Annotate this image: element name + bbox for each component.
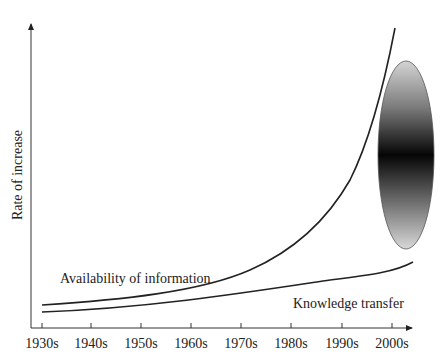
x-tick-labels: 1930s 1940s 1950s 1960s 1970s 1980s 1990… <box>25 336 408 351</box>
gap-ellipse <box>378 61 434 249</box>
tick-label: 1930s <box>25 336 58 351</box>
tick-label: 1980s <box>274 336 307 351</box>
availability-curve <box>42 28 395 305</box>
knowledge-transfer-label: Knowledge transfer <box>293 296 404 311</box>
x-ticks <box>42 323 392 328</box>
chart: 1930s 1940s 1950s 1960s 1970s 1980s 1990… <box>0 0 443 361</box>
tick-label: 1960s <box>174 336 207 351</box>
availability-label: Availability of information <box>60 271 211 286</box>
tick-label: 1950s <box>124 336 157 351</box>
tick-label: 1940s <box>74 336 107 351</box>
tick-label: 2000s <box>375 336 408 351</box>
tick-label: 1990s <box>325 336 358 351</box>
tick-label: 1970s <box>224 336 257 351</box>
y-axis-label: Rate of increase <box>10 130 25 220</box>
